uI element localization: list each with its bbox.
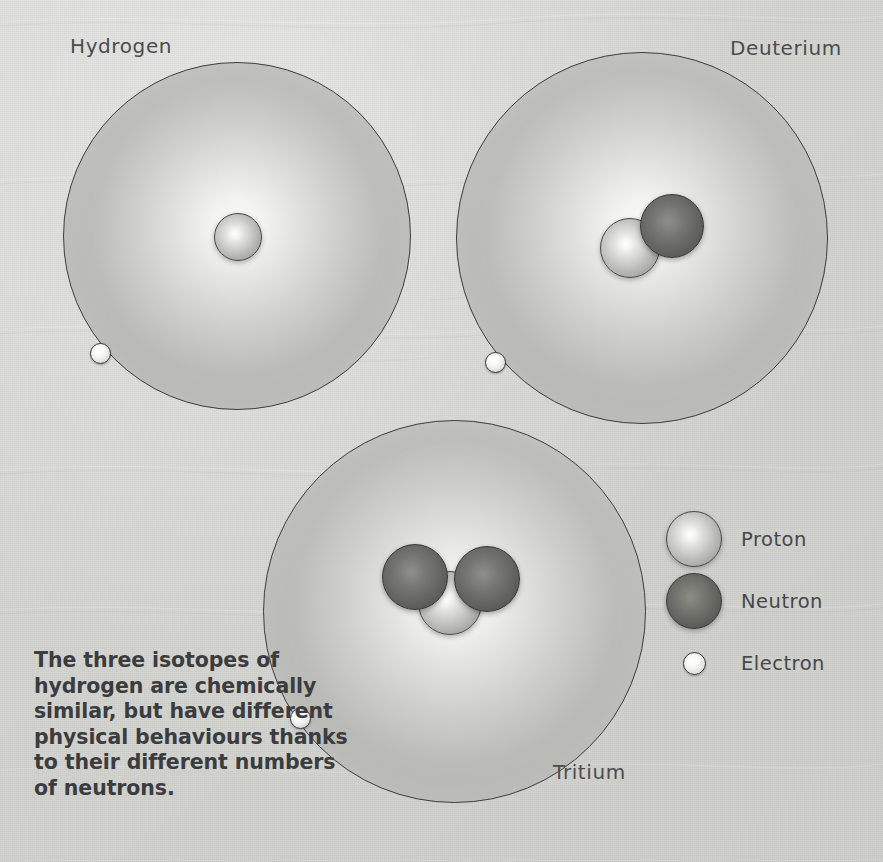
electron-deuterium-1 xyxy=(485,352,506,373)
atom-label-deuterium: Deuterium xyxy=(730,36,842,60)
electron-hydrogen-1 xyxy=(90,343,111,364)
neutron-sphere-icon xyxy=(663,573,725,629)
atom-hydrogen xyxy=(63,62,411,410)
proton-sphere-icon xyxy=(663,511,725,567)
legend-item-electron: Electron xyxy=(663,632,878,694)
neutron-tritium-1 xyxy=(382,544,448,610)
legend: Proton Neutron Electron xyxy=(663,508,878,694)
atom-label-tritium: Tritium xyxy=(553,760,626,784)
atom-label-hydrogen: Hydrogen xyxy=(70,34,172,58)
neutron-deuterium-1 xyxy=(640,194,704,258)
legend-item-proton: Proton xyxy=(663,508,878,570)
legend-label-neutron: Neutron xyxy=(741,590,823,613)
neutron-tritium-2 xyxy=(454,546,520,612)
electron-dot-icon xyxy=(663,652,725,675)
proton-hydrogen-1 xyxy=(214,213,262,261)
legend-item-neutron: Neutron xyxy=(663,570,878,632)
legend-label-proton: Proton xyxy=(741,528,807,551)
legend-label-electron: Electron xyxy=(741,652,825,675)
isotopes-diagram: Hydrogen Deuterium Tritium The three iso… xyxy=(0,0,883,862)
diagram-caption: The three isotopes of hydrogen are chemi… xyxy=(34,648,364,801)
atom-deuterium xyxy=(456,52,828,424)
